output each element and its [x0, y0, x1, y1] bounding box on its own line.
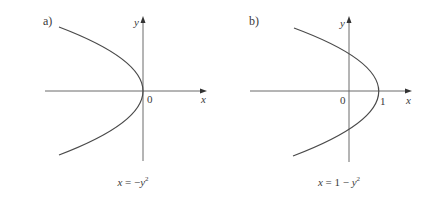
panel-b-caption: x = 1 − y2 [317, 175, 361, 188]
panel-a-origin-label: 0 [147, 93, 153, 105]
panel-a-caption-eq: = [122, 176, 134, 188]
panel-b-x-axis-label: x [405, 94, 411, 106]
panel-b-x-axis-arrow-icon [405, 89, 412, 94]
panel-a-caption-exponent: 2 [145, 175, 149, 183]
panel-b-origin-label: 0 [340, 94, 346, 106]
panel-b-label: b) [249, 14, 259, 28]
panel-b-caption-eq: = [323, 176, 335, 188]
panel-b-caption-prefix: 1 − [335, 176, 352, 188]
panel-b-caption-exponent: 2 [357, 175, 361, 183]
panel-a-y-axis-arrow-icon [141, 16, 146, 23]
panel-a: a) x y 0 x = −y2 [43, 14, 207, 188]
panel-b-y-axis-arrow-icon [347, 16, 352, 23]
panel-a-x-axis-label: x [200, 93, 206, 105]
panel-a-y-axis-label: y [133, 16, 139, 28]
panel-a-label: a) [43, 14, 52, 28]
panel-b-vertex-label: 1 [380, 95, 386, 107]
panel-b-parabola-curve [293, 28, 379, 156]
parabola-figure: a) x y 0 x = −y2 b) x y 0 1 [0, 0, 437, 205]
panel-b: b) x y 0 1 x = 1 − y2 [249, 14, 412, 188]
panel-b-y-axis-label: y [339, 17, 345, 29]
panel-a-caption: x = −y2 [116, 175, 149, 188]
